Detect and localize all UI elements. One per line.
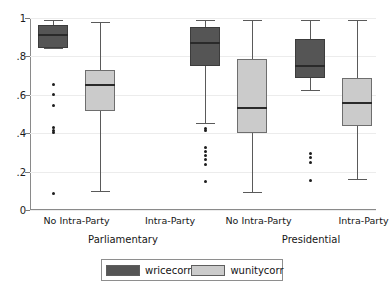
whisker-cap-upper: [348, 20, 367, 21]
y-axis-ticks: 0.2.4.6.81: [0, 18, 26, 210]
x-category-label-1: Intra-Party: [145, 215, 195, 226]
box-presidential-intra-party-wunitycorr: [30, 18, 376, 210]
legend-swatch-wunitycorr: [191, 265, 225, 276]
whisker-upper: [357, 20, 358, 79]
legend-item-0[interactable]: wricecorr: [106, 265, 191, 276]
x-category-label-2: No Intra-Party: [225, 215, 291, 226]
legend-label-wunitycorr: wunitycorr: [230, 265, 283, 276]
legend-swatch-wricecorr: [106, 265, 140, 276]
x-group-label-1: Presidential: [282, 234, 340, 245]
legend-label-wricecorr: wricecorr: [145, 265, 191, 276]
x-category-label-0: No Intra-Party: [43, 215, 109, 226]
gridline: [30, 210, 376, 211]
x-group-label-0: Parliamentary: [88, 234, 158, 245]
chart-legend: wricecorr wunitycorr: [101, 259, 283, 281]
x-category-label-3: Intra-Party: [338, 215, 388, 226]
plot-area: [30, 18, 376, 210]
y-axis-tick-mark: [25, 210, 30, 211]
whisker-lower: [357, 126, 358, 179]
whisker-cap-lower: [348, 179, 367, 180]
median-line: [342, 102, 372, 104]
legend-item-1[interactable]: wunitycorr: [191, 265, 283, 276]
